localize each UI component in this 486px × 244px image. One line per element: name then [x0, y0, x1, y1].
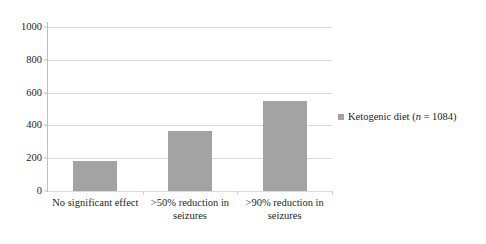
chart-legend: Ketogenic diet (n = 1084) — [338, 112, 457, 123]
y-tick-mark-600 — [44, 92, 48, 93]
bar-3 — [263, 101, 307, 191]
y-tick-mark-800 — [44, 59, 48, 60]
x-tick-mark-2 — [237, 191, 238, 195]
legend-label-ketogenic-diet: Ketogenic diet (n = 1084) — [348, 112, 457, 123]
y-tick-label-1000: 1000 — [21, 22, 42, 33]
gridline-0 — [48, 191, 332, 192]
gridline-600 — [48, 93, 332, 94]
y-tick-mark-200 — [44, 158, 48, 159]
bar-1 — [73, 161, 117, 191]
y-tick-mark-1000 — [44, 27, 48, 28]
x-category-label-1-line-1: No significant effect — [48, 196, 143, 209]
y-tick-label-0: 0 — [37, 186, 42, 197]
bar-2 — [168, 131, 212, 191]
bar-chart-figure: 02004006008001000 No significant effect>… — [0, 0, 486, 244]
y-tick-label-400: 400 — [26, 120, 42, 131]
y-axis-tick-labels: 02004006008001000 — [0, 0, 42, 244]
x-category-label-2: >50% reduction inseizures — [143, 196, 238, 223]
x-category-label-3-line-2: seizures — [237, 209, 332, 222]
x-category-label-2-line-2: seizures — [143, 209, 238, 222]
gridline-1000 — [48, 27, 332, 28]
y-tick-label-600: 600 — [26, 87, 42, 98]
plot-area — [48, 27, 332, 191]
x-category-label-3: >90% reduction inseizures — [237, 196, 332, 223]
legend-italic-n: n — [416, 111, 421, 122]
x-tick-mark-3 — [332, 191, 333, 195]
legend-swatch-ketogenic-diet — [338, 114, 344, 120]
x-category-label-3-line-1: >90% reduction in — [237, 196, 332, 209]
y-tick-label-200: 200 — [26, 153, 42, 164]
x-tick-mark-1 — [143, 191, 144, 195]
gridline-800 — [48, 60, 332, 61]
y-tick-label-800: 800 — [26, 55, 42, 66]
y-tick-mark-0 — [44, 191, 48, 192]
y-tick-mark-400 — [44, 125, 48, 126]
x-category-label-2-line-1: >50% reduction in — [143, 196, 238, 209]
x-category-label-1: No significant effect — [48, 196, 143, 209]
